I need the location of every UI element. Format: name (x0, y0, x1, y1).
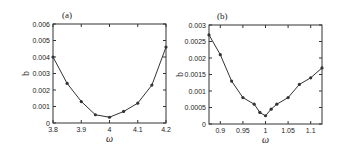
y-tick-label: 0.0015 (185, 71, 207, 78)
x-tick-label: 4.2 (161, 126, 171, 133)
y-tick-label: 0.002 (188, 55, 206, 62)
data-point (270, 108, 273, 111)
x-tick-label: 1.05 (281, 127, 295, 134)
data-point (275, 103, 278, 106)
y-tick-label: 0.003 (188, 22, 206, 29)
y-axis-label: b (174, 72, 185, 77)
panel-label: (a) (62, 10, 72, 20)
y-tick-label: 0.002 (32, 87, 50, 94)
data-point (230, 80, 233, 83)
data-point (66, 82, 69, 85)
series-line (209, 35, 322, 116)
y-axis-label: b (20, 71, 31, 76)
y-tick-label: 0.003 (32, 70, 50, 77)
panel-label: (b) (217, 11, 228, 21)
data-point (241, 96, 244, 99)
data-point (164, 46, 167, 49)
data-point (253, 103, 256, 106)
data-point (258, 111, 261, 114)
data-point (219, 53, 222, 56)
y-tick-label: 0.004 (32, 54, 50, 61)
y-tick-label: 0.0025 (185, 38, 207, 45)
y-tick-label: 0.0005 (185, 104, 207, 111)
x-tick-label: 1 (264, 127, 268, 134)
x-tick-label: 1.1 (306, 127, 316, 134)
chart-panel-b: 00.00050.0010.00150.0020.00250.0030.90.9… (174, 11, 324, 145)
y-tick-label: 0.001 (188, 88, 206, 95)
data-point (207, 33, 210, 36)
data-point (80, 100, 83, 103)
data-point (298, 83, 301, 86)
data-point (136, 102, 139, 105)
x-tick-label: 4 (108, 126, 112, 133)
data-point (122, 110, 125, 113)
plot-frame (209, 25, 322, 124)
x-axis-label: ω (262, 134, 269, 145)
x-tick-label: 4.1 (133, 126, 143, 133)
data-point (51, 55, 54, 58)
chart-panel-a: 00.0010.0020.0030.0040.0050.0063.83.944.… (20, 10, 171, 144)
data-point (309, 76, 312, 79)
data-point (150, 83, 153, 86)
x-tick-label: 0.9 (215, 127, 225, 134)
plot-frame (53, 24, 166, 123)
y-tick-label: 0.001 (32, 103, 50, 110)
series-line (53, 47, 166, 117)
y-tick-label: 0.006 (32, 21, 50, 28)
y-tick-label: 0.005 (32, 37, 50, 44)
chart-canvas: 00.0010.0020.0030.0040.0050.0063.83.944.… (0, 0, 338, 150)
data-point (320, 66, 323, 69)
x-axis-label: ω (106, 133, 113, 144)
data-point (287, 96, 290, 99)
x-tick-label: 0.95 (236, 127, 250, 134)
y-tick-label: 0 (202, 121, 206, 128)
data-point (264, 114, 267, 117)
x-tick-label: 3.9 (76, 126, 86, 133)
data-point (108, 116, 111, 119)
data-point (94, 113, 97, 116)
x-tick-label: 3.8 (48, 126, 58, 133)
